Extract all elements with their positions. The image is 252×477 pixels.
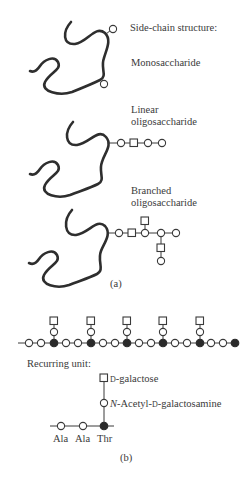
branched-square-top-icon — [141, 217, 149, 225]
branched-sugar-bottom-icon — [157, 257, 164, 264]
repeat-unit-5 — [171, 317, 203, 347]
chain-end-thr-icon — [231, 339, 239, 347]
branched-sugar-3-icon — [157, 229, 164, 236]
caption-b: (b) — [120, 452, 133, 464]
monosaccharide-bottom-icon — [100, 80, 107, 87]
thr-icon — [100, 422, 108, 430]
branched-sugar-end-icon — [172, 229, 179, 236]
linear-square-icon — [130, 139, 138, 147]
label-branched-1: Branched — [131, 185, 172, 196]
linear-sugar-1-icon — [117, 139, 124, 146]
repeating-glycopeptide-chain — [18, 317, 239, 347]
recurring-unit-diagram — [50, 374, 114, 430]
label-galnac: N-Acetyl-D-galactosamine — [109, 398, 222, 409]
label-linear-1: Linear — [131, 104, 159, 115]
galnac-icon — [100, 399, 107, 406]
repeat-unit-4 — [135, 317, 166, 347]
ala-2-icon — [79, 422, 86, 429]
monosaccharide-top-icon — [109, 25, 116, 32]
protein-chain-monosaccharide — [30, 22, 117, 94]
linear-sugar-4-icon — [158, 139, 165, 146]
label-linear-2: oligosaccharide — [131, 116, 197, 127]
label-branched-2: oligosaccharide — [131, 197, 197, 208]
label-monosaccharide: Monosaccharide — [131, 57, 201, 68]
label-galactose: D-galactose — [110, 373, 159, 384]
branched-square-bottom-icon — [157, 244, 165, 252]
residue-label-ala-1: Ala — [53, 433, 69, 444]
galactose-icon — [100, 374, 108, 382]
repeat-unit-2 — [62, 317, 94, 347]
residue-label-ala-2: Ala — [75, 433, 91, 444]
branched-sugar-1-icon — [115, 229, 122, 236]
ala-1-icon — [57, 422, 64, 429]
repeat-unit-3 — [99, 317, 130, 347]
residue-label-thr: Thr — [97, 433, 113, 444]
recurring-unit-label: Recurring unit: — [27, 358, 91, 369]
protein-chain-branched — [29, 210, 180, 287]
branched-square-1-icon — [128, 229, 136, 237]
side-chain-heading: Side-chain structure: — [130, 22, 217, 33]
repeat-unit-1 — [25, 317, 57, 347]
glycoprotein-diagram: Side-chain structure: Monosaccharide Lin… — [0, 0, 252, 477]
branched-sugar-2-icon — [141, 229, 148, 236]
caption-a: (a) — [110, 278, 122, 290]
linear-sugar-3-icon — [144, 139, 151, 146]
